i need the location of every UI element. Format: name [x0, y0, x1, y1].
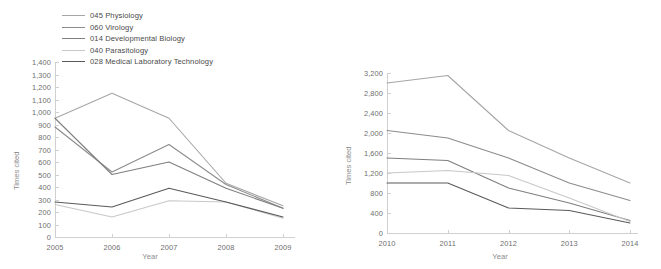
chart-panel-right: Times cited Year 04008001,2001,6002,0002…: [330, 0, 661, 269]
chart-page: 045 Physiology060 Virology014 Developmen…: [0, 0, 661, 269]
plot-area-left: [0, 0, 330, 269]
series-line: [387, 183, 630, 223]
chart-panel-left: Times cited Year 01002003004005006007008…: [0, 0, 330, 269]
plot-area-right: [330, 0, 661, 269]
series-line: [55, 93, 283, 206]
line-series-left: [0, 0, 330, 269]
series-line: [387, 131, 630, 201]
series-line: [387, 171, 630, 222]
line-series-right: [330, 0, 661, 269]
series-line: [55, 201, 283, 219]
series-line: [387, 76, 630, 184]
series-line: [387, 158, 630, 221]
series-line: [55, 118, 283, 208]
